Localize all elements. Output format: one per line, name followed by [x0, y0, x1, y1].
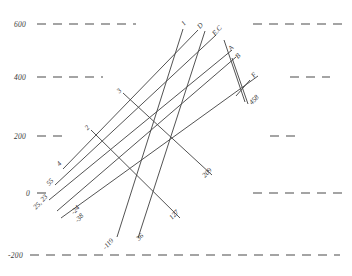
falling-line-3-209 — [123, 93, 212, 175]
y-tick-400: 400 — [14, 73, 26, 82]
falling-line-A-458 — [232, 58, 248, 104]
label-1: 1 — [180, 19, 188, 27]
label-2: 2 — [83, 124, 92, 132]
label-3: 3 — [115, 87, 124, 96]
label-55: 55 — [45, 177, 56, 188]
label-4: 4 — [55, 160, 64, 168]
rising-line-neg24-B — [57, 57, 236, 211]
label-209: 209 — [201, 166, 214, 180]
y-tick-neg200: -200 — [8, 251, 23, 260]
rising-line-55-EC — [55, 35, 216, 185]
y-tick-200: 200 — [14, 132, 26, 141]
label-B: B — [234, 51, 243, 60]
label-D: D — [195, 21, 205, 31]
label-127: 127 — [168, 208, 181, 222]
nomogram-svg: 600 400 200 0 -200 4 55 25, 23 -24 -38 2… — [0, 0, 352, 276]
rising-line-neg38-F — [61, 76, 258, 218]
label-458: 458 — [248, 93, 261, 107]
figure-canvas: 600 400 200 0 -200 4 55 25, 23 -24 -38 2… — [0, 0, 352, 276]
y-tick-0: 0 — [26, 189, 30, 198]
label-36: 36 — [134, 231, 146, 243]
label-25-23: 25, 23 — [32, 193, 50, 212]
label-F: F — [249, 70, 259, 80]
y-axis-labels: 600 400 200 0 -200 — [8, 20, 30, 260]
label-EC: E.C — [210, 24, 224, 38]
falling-line-1-neg119 — [117, 29, 183, 237]
falling-lines-group — [91, 29, 250, 238]
y-tick-600: 600 — [14, 20, 26, 29]
label-A: A — [226, 43, 236, 53]
label-neg119: -119 — [101, 237, 116, 252]
falling-line-D-36 — [138, 31, 205, 238]
